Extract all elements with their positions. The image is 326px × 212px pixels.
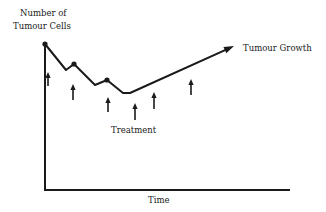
treatment-arrow-icon bbox=[188, 79, 193, 95]
treatment-arrows bbox=[45, 72, 193, 120]
curve-label: Tumour Growth bbox=[243, 43, 312, 53]
y-axis-label-line2: Tumour Cells bbox=[13, 21, 71, 31]
dose-point-icon bbox=[104, 77, 109, 82]
axes bbox=[44, 44, 290, 190]
dose-points bbox=[42, 41, 109, 82]
dose-point-icon bbox=[71, 61, 76, 66]
treatment-arrow-icon bbox=[105, 97, 110, 112]
diagram-canvas bbox=[0, 0, 326, 212]
treatment-arrow-icon bbox=[151, 92, 156, 109]
dose-point-icon bbox=[42, 41, 47, 46]
growth-arrowhead-icon bbox=[223, 46, 234, 53]
tumour-cell-curve bbox=[45, 44, 227, 93]
treatment-arrow-icon bbox=[132, 103, 137, 120]
treatment-label: Treatment bbox=[111, 125, 156, 135]
y-axis-label-line1: Number of bbox=[20, 8, 66, 18]
treatment-arrow-icon bbox=[45, 72, 50, 86]
treatment-arrow-icon bbox=[70, 84, 75, 100]
x-axis-label: Time bbox=[148, 195, 169, 205]
